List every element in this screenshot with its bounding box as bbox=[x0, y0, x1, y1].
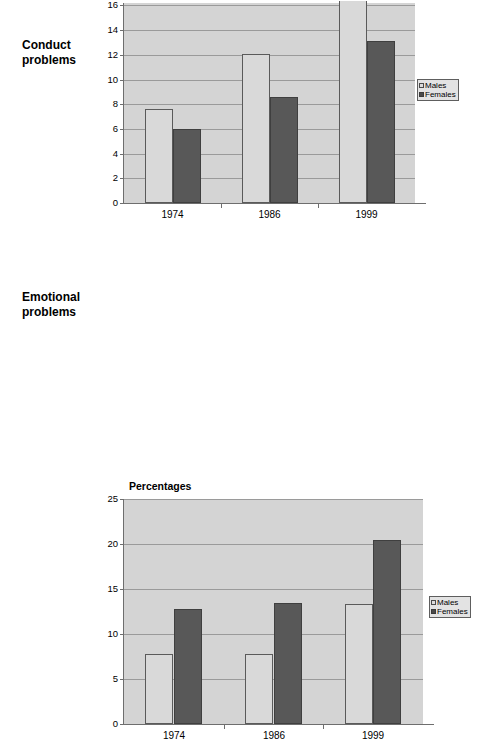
y-axis-tick-label: 25 bbox=[78, 494, 118, 504]
chart-title-percentages: Percentages bbox=[129, 480, 191, 492]
y-axis-tick-label: 0 bbox=[78, 198, 118, 208]
legend-swatch-males-icon bbox=[431, 600, 436, 605]
y-axis-line bbox=[123, 499, 124, 725]
y-axis-tick-label: 6 bbox=[78, 124, 118, 134]
legend-item-males[interactable]: Males bbox=[431, 598, 468, 607]
bar-males-1974 bbox=[145, 109, 173, 203]
y-axis-tick-label: 4 bbox=[78, 149, 118, 159]
bar-females-1986 bbox=[274, 603, 302, 724]
bar-males-1999 bbox=[345, 604, 373, 724]
x-axis-tick bbox=[323, 725, 324, 729]
bars-emotional bbox=[124, 499, 423, 724]
legend-conduct[interactable]: Males Females bbox=[417, 79, 459, 101]
x-axis-category-label-1986: 1986 bbox=[221, 209, 318, 221]
legend-item-females[interactable]: Females bbox=[419, 90, 456, 99]
y-axis-tick-label: 2 bbox=[78, 173, 118, 183]
bar-males-1999 bbox=[339, 1, 367, 203]
panel-emotional-problems: Emotional problems 051015202519741986199… bbox=[0, 235, 486, 518]
bar-females-1999 bbox=[367, 41, 395, 203]
legend-swatch-males-icon bbox=[419, 83, 424, 88]
bar-males-1986 bbox=[242, 54, 270, 203]
bar-females-1974 bbox=[173, 129, 201, 203]
bar-males-1986 bbox=[245, 654, 273, 724]
y-axis-tick-label: 10 bbox=[78, 75, 118, 85]
panel-conduct-problems: Conduct problems 02468101214161974198619… bbox=[0, 0, 486, 222]
y-axis-tick-label: 10 bbox=[78, 629, 118, 639]
legend-swatch-females-icon bbox=[431, 609, 436, 614]
bar-females-1999 bbox=[373, 540, 401, 724]
x-axis-line bbox=[123, 724, 434, 725]
y-axis-tick-label: 5 bbox=[78, 674, 118, 684]
x-axis-category-label-1974: 1974 bbox=[124, 730, 224, 742]
legend-label-males: Males bbox=[437, 598, 458, 607]
legend-label-females: Females bbox=[437, 607, 468, 616]
row-label-emotional-problems: Emotional problems bbox=[22, 290, 122, 320]
y-axis-tick-label: 20 bbox=[78, 539, 118, 549]
plot-area-conduct bbox=[124, 3, 415, 203]
bar-females-1986 bbox=[270, 97, 298, 203]
plot-area-emotional bbox=[124, 499, 423, 724]
x-axis-line bbox=[123, 203, 426, 204]
legend-item-males[interactable]: Males bbox=[419, 81, 456, 90]
legend-label-females: Females bbox=[425, 90, 456, 99]
legend-label-males: Males bbox=[425, 81, 446, 90]
x-axis-tick bbox=[318, 204, 319, 208]
x-axis-tick bbox=[224, 725, 225, 729]
y-axis-tick-label: 16 bbox=[78, 0, 118, 10]
bar-males-1974 bbox=[145, 654, 173, 724]
legend-emotional[interactable]: Males Females bbox=[429, 596, 471, 618]
x-axis-category-label-1999: 1999 bbox=[323, 730, 423, 742]
x-axis-category-label-1999: 1999 bbox=[318, 209, 415, 221]
bars-conduct bbox=[124, 3, 415, 203]
bar-females-1974 bbox=[174, 609, 202, 724]
y-axis-tick-label: 14 bbox=[78, 25, 118, 35]
y-axis-tick-label: 15 bbox=[78, 584, 118, 594]
legend-item-females[interactable]: Females bbox=[431, 607, 468, 616]
x-axis-category-label-1986: 1986 bbox=[224, 730, 324, 742]
y-axis-line bbox=[123, 3, 124, 204]
y-axis-tick-label: 8 bbox=[78, 99, 118, 109]
legend-swatch-females-icon bbox=[419, 92, 424, 97]
x-axis-category-label-1974: 1974 bbox=[124, 209, 221, 221]
y-axis-tick-label: 0 bbox=[78, 719, 118, 729]
x-axis-tick bbox=[221, 204, 222, 208]
y-axis-tick-label: 12 bbox=[78, 50, 118, 60]
